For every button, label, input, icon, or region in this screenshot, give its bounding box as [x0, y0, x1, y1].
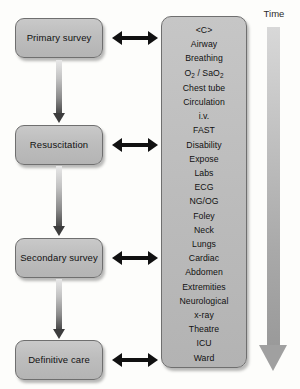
checklist-item: Foley [162, 209, 246, 223]
flow-arrow-down-icon [53, 166, 65, 236]
checklist-item: Disability [162, 138, 246, 152]
stage-box-primary-survey[interactable]: Primary survey [15, 18, 103, 58]
checklist-item: Airway [162, 37, 246, 51]
checklist-item: x-ray [162, 308, 246, 322]
checklist-item: ECG [162, 180, 246, 194]
arrow-shaft [121, 36, 149, 40]
stage-label: Definitive care [28, 355, 90, 365]
checklist-item: Cardiac [162, 251, 246, 265]
bidirectional-arrow-icon [112, 250, 158, 266]
checklist-item: Neurological [162, 294, 246, 308]
checklist-item: Neck [162, 223, 246, 237]
arrow-head-right [148, 251, 158, 265]
stage-label: Secondary survey [20, 253, 98, 263]
stage-box-definitive-care[interactable]: Definitive care [15, 340, 103, 380]
checklist-item: Labs [162, 166, 246, 180]
arrow-shaft [56, 279, 62, 329]
time-arrow-shaft [267, 27, 280, 345]
checklist-item: NG/OG [162, 194, 246, 208]
stage-box-resuscitation[interactable]: Resuscitation [15, 125, 103, 165]
checklist-item: Breathing [162, 51, 246, 65]
arrow-head [53, 226, 65, 236]
time-axis-label: Time [258, 8, 290, 19]
checklist-item: O2 / SaO2 [162, 66, 246, 81]
arrow-shaft [56, 166, 62, 226]
arrow-shaft [121, 358, 149, 362]
bidirectional-arrow-icon [112, 30, 158, 46]
checklist-item: Lungs [162, 237, 246, 251]
bidirectional-arrow-icon [112, 137, 158, 153]
checklist-item: Ward [162, 351, 246, 365]
arrow-shaft [121, 143, 149, 147]
arrow-shaft [121, 256, 149, 260]
checklist-item: Abdomen [162, 265, 246, 279]
checklist-item: Circulation [162, 95, 246, 109]
arrow-head-right [148, 353, 158, 367]
checklist-panel[interactable]: <C>AirwayBreathingO2 / SaO2Chest tubeCir… [161, 16, 247, 368]
arrow-head [53, 113, 65, 123]
trauma-care-flowchart: Primary survey Resuscitation Secondary s… [0, 0, 300, 389]
arrow-head [53, 329, 65, 339]
time-arrow-head-icon [259, 345, 287, 371]
bidirectional-arrow-icon [112, 352, 158, 368]
checklist-item: FAST [162, 123, 246, 137]
checklist-item: Theatre [162, 322, 246, 336]
arrow-head-right [148, 31, 158, 45]
flow-arrow-down-icon [53, 60, 65, 123]
flow-arrow-down-icon [53, 279, 65, 339]
arrow-shaft [56, 60, 62, 113]
checklist-item: <C> [162, 23, 246, 37]
checklist-item: Expose [162, 152, 246, 166]
checklist-item: Chest tube [162, 81, 246, 95]
checklist-item: ICU [162, 336, 246, 350]
checklist-item: i.v. [162, 109, 246, 123]
checklist-item: Extremities [162, 280, 246, 294]
arrow-head-right [148, 138, 158, 152]
time-axis: Time [258, 5, 298, 385]
stage-label: Resuscitation [30, 140, 88, 150]
stage-box-secondary-survey[interactable]: Secondary survey [15, 238, 103, 278]
stage-label: Primary survey [27, 33, 92, 43]
